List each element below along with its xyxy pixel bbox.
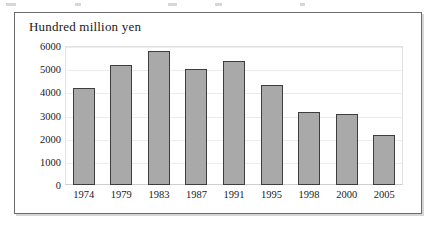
x-tick-label: 2005 [374,189,395,200]
bar-series [65,46,403,185]
y-tick-label: 2000 [40,133,61,144]
scan-artifact-mark [75,3,81,6]
scan-artifact-mark [215,3,222,6]
x-tick-label: 2000 [336,189,357,200]
y-tick-label: 4000 [40,87,61,98]
x-tick-label: 1991 [224,189,245,200]
y-tick-label: 5000 [40,64,61,75]
bar [148,51,170,185]
x-axis: 197419791983198719911995199820002005 [65,189,403,205]
scan-artifact-mark [6,3,16,6]
y-tick-label: 6000 [40,41,61,52]
scan-artifact-mark [300,3,305,6]
bar [373,135,395,185]
x-tick-label: 1979 [111,189,132,200]
y-tick-label: 1000 [40,156,61,167]
chart-title: Hundred million yen [29,19,141,35]
chart-figure-frame: Hundred million yen 01000200030004000500… [14,12,422,214]
bar [185,69,207,185]
bar [261,85,283,185]
x-tick-label: 1995 [261,189,282,200]
x-tick-label: 1987 [186,189,207,200]
bar [336,114,358,185]
x-tick-label: 1998 [299,189,320,200]
scan-artifact-mark [168,3,177,6]
bar [223,61,245,185]
x-tick-label: 1983 [148,189,169,200]
y-axis: 0100020003000400050006000 [15,46,61,185]
y-tick-label: 0 [56,180,61,191]
x-tick-label: 1974 [73,189,94,200]
bar [298,112,320,185]
bar [110,65,132,185]
y-tick-label: 3000 [40,110,61,121]
bar [73,88,95,185]
scan-artifacts [0,0,438,12]
